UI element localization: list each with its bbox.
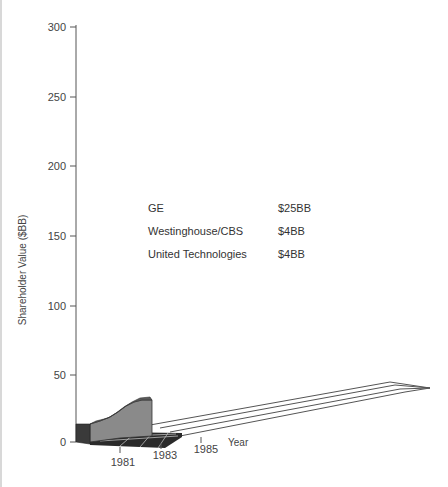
y-tick-100: 100 (48, 300, 66, 312)
ge-side-block (76, 424, 90, 444)
legend-name: Westinghouse/CBS (148, 225, 278, 237)
legend-value: $4BB (278, 248, 338, 260)
y-tick-50: 50 (54, 369, 66, 381)
y-tick-labels: 300 250 200 150 100 50 0 (48, 21, 66, 448)
legend-value: $4BB (278, 225, 338, 237)
legend-name: GE (148, 202, 278, 214)
x-axis-label: Year (228, 437, 248, 448)
legend-item-united-technologies: United Technologies $4BB (148, 242, 338, 265)
legend-value: $25BB (278, 202, 338, 214)
legend-item-ge: GE $25BB (148, 196, 338, 219)
y-axis-label: Shareholder Value ($BB) (17, 215, 28, 325)
legend-item-westinghouse: Westinghouse/CBS $4BB (148, 219, 338, 242)
y-tick-0: 0 (60, 436, 66, 448)
y-ticks (70, 27, 76, 442)
x-tick-1983: 1983 (153, 449, 177, 461)
x-tick-1981: 1981 (111, 456, 135, 468)
y-tick-150: 150 (48, 230, 66, 242)
legend: GE $25BB Westinghouse/CBS $4BB United Te… (148, 196, 338, 265)
ribbon-lines (150, 382, 430, 436)
y-tick-250: 250 (48, 91, 66, 103)
y-tick-300: 300 (48, 21, 66, 33)
x-tick-1985: 1985 (194, 443, 218, 455)
legend-name: United Technologies (148, 248, 278, 260)
y-tick-200: 200 (48, 160, 66, 172)
